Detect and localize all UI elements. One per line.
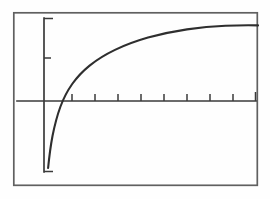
plot-background <box>0 0 270 199</box>
plot-canvas <box>0 0 270 199</box>
graph-screenshot <box>0 0 270 199</box>
